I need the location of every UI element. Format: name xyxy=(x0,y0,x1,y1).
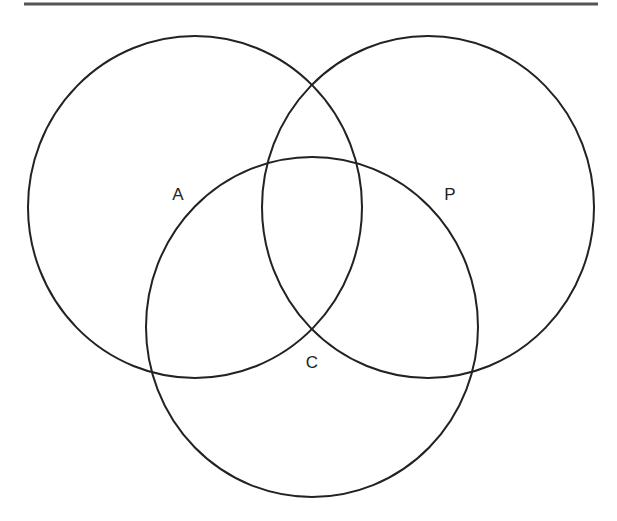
set-p-label: P xyxy=(444,185,455,204)
set-c-label: C xyxy=(306,353,318,372)
set-p-circle xyxy=(262,36,594,378)
venn-diagram: A P C xyxy=(0,0,617,521)
set-a-label: A xyxy=(172,185,184,204)
set-c-circle xyxy=(146,157,478,497)
